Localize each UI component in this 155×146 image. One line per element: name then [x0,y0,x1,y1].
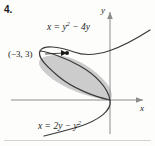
x-axis-arrow [136,97,143,103]
equation-lower-prefix: x = 2y − y [38,121,78,131]
equation-upper-prefix: x = y [47,22,67,32]
equation-lower-exponent: 2 [78,119,81,126]
equation-label-upper-curve: x = y2 − 4y [47,22,90,33]
y-axis-label: y [101,5,105,15]
bottom-divider [4,140,151,141]
y-axis-arrow [107,12,113,19]
figure-container: 4. x = y2 − 4y x = 2y − y2 (−3, 3) y x [0,0,155,146]
shaded-region [39,55,112,100]
equation-upper-suffix: − 4y [70,22,90,32]
intersection-point-label: (−3, 3) [8,49,33,60]
point-label-leader-arrow [61,50,67,56]
equation-label-lower-curve: x = 2y − y2 [38,121,81,132]
x-axis-label: x [140,103,144,113]
